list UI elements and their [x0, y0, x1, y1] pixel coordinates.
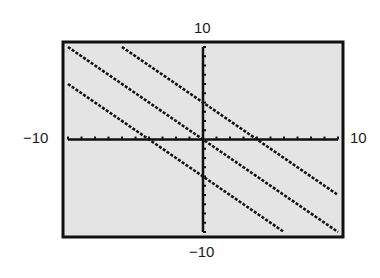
xmax-label: 10 [350, 130, 367, 145]
xmin-label: −10 [23, 130, 48, 145]
ymin-label: −10 [189, 244, 214, 259]
graphing-calculator-screen [0, 0, 380, 278]
ymax-label: 10 [194, 20, 211, 35]
